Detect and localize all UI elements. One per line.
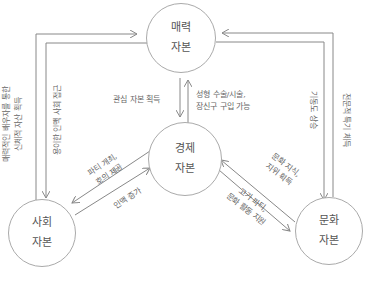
edge-label-attractive-to-cultural: 기동도 상승 (307, 80, 319, 140)
edge-label-line: 기동도 상승 (307, 80, 319, 140)
node-economic-capital: 경제 자본 (148, 122, 222, 196)
node-attractive-capital: 매력 자본 (146, 3, 216, 73)
node-label: 자본 (32, 233, 52, 253)
edge-label-cultural-to-attractive: 전문적 특기 체득 (340, 80, 352, 160)
node-cultural-capital: 문화 자본 (295, 197, 363, 265)
node-label: 자본 (175, 159, 195, 179)
node-label: 경제 (175, 139, 195, 159)
node-social-capital: 사회 자본 (8, 199, 76, 267)
edge-label-attractive-to-economic: 관심 자본 획득 (113, 94, 160, 106)
edge-label-line: 신체적 자산 획득 (13, 69, 25, 179)
edge-label-line: 장신구 구입 가능 (196, 101, 250, 113)
node-label: 매력 (171, 18, 191, 38)
edge-label-line: 관심 자본 획득 (113, 95, 160, 104)
edge-label-attractive-to-social: 용이한 인맥 사회 접근 (52, 70, 64, 170)
edge-label-line: 용이한 인맥 사회 접근 (52, 70, 64, 170)
node-label: 사회 (32, 213, 52, 233)
edge-label-social-to-attractive: 매력적인 배우자를 통한 신체적 자산 획득 (1, 69, 25, 179)
edge-label-economic-to-attractive: 성형 수술/시술, 장신구 구입 가능 (196, 89, 250, 113)
node-label: 자본 (171, 38, 191, 58)
edge-label-line: 전문적 특기 체득 (340, 80, 352, 160)
node-label: 문화 (319, 211, 339, 231)
edge-label-line: 매력적인 배우자를 통한 (1, 69, 13, 179)
edge-label-line: 성형 수술/시술, (196, 89, 250, 101)
node-label: 자본 (319, 231, 339, 251)
